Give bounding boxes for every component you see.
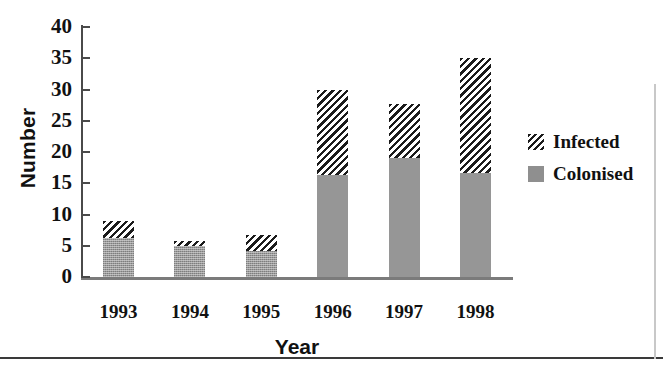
page-bottom-rule (0, 357, 663, 359)
bar-segment-colonised (246, 251, 277, 277)
bar-1998 (460, 58, 491, 277)
x-tick-label: 1998 (441, 301, 511, 323)
y-tick-mark (81, 214, 90, 216)
y-tick-label: 20 (26, 141, 72, 162)
bar-segment-colonised (174, 246, 205, 277)
bar-segment-infected (246, 235, 277, 251)
legend-item-infected: Infected (528, 131, 658, 153)
bar-1994 (174, 241, 205, 277)
bar-chart: Number Year 0510152025303540 19931994199… (0, 0, 663, 371)
x-tick-label: 1993 (84, 301, 154, 323)
x-tick-label: 1995 (226, 301, 296, 323)
bar-segment-infected (460, 58, 491, 173)
y-tick-label: 10 (26, 204, 72, 225)
x-tick-label: 1994 (155, 301, 225, 323)
bar-1997 (389, 104, 420, 277)
y-tick-label: 30 (26, 79, 72, 100)
page-right-rule (654, 84, 656, 359)
bar-segment-infected (317, 90, 348, 175)
y-tick-mark (81, 120, 90, 122)
bar-segment-infected (389, 104, 420, 158)
diagonal-hatch-swatch-icon (528, 134, 544, 150)
bar-1993 (103, 221, 134, 277)
bar-segment-colonised (460, 173, 491, 277)
solid-gray-swatch-icon (528, 166, 544, 182)
y-tick-label: 25 (26, 110, 72, 131)
y-tick-mark (81, 57, 90, 59)
x-axis-title: Year (232, 335, 362, 359)
y-tick-label: 15 (26, 172, 72, 193)
y-tick-label: 0 (26, 266, 72, 287)
bar-1996 (317, 90, 348, 278)
y-tick-label: 40 (26, 16, 72, 37)
y-tick-mark (81, 182, 90, 184)
x-axis-line (81, 277, 513, 280)
legend-label-infected: Infected (553, 131, 619, 153)
bar-1995 (246, 235, 277, 278)
bar-segment-colonised (103, 238, 134, 277)
legend-item-colonised: Colonised (528, 163, 658, 185)
bar-segment-infected (103, 221, 134, 238)
y-tick-mark (81, 276, 90, 278)
y-tick-mark (81, 151, 90, 153)
legend-label-colonised: Colonised (553, 163, 633, 185)
y-tick-mark (81, 89, 90, 91)
y-tick-mark (81, 26, 90, 28)
bar-segment-colonised (389, 158, 420, 277)
x-tick-label: 1996 (298, 301, 368, 323)
x-tick-label: 1997 (369, 301, 439, 323)
bar-segment-colonised (317, 175, 348, 278)
y-tick-label: 5 (26, 235, 72, 256)
y-tick-label: 35 (26, 47, 72, 68)
chart-legend: Infected Colonised (528, 131, 658, 195)
y-tick-mark (81, 245, 90, 247)
